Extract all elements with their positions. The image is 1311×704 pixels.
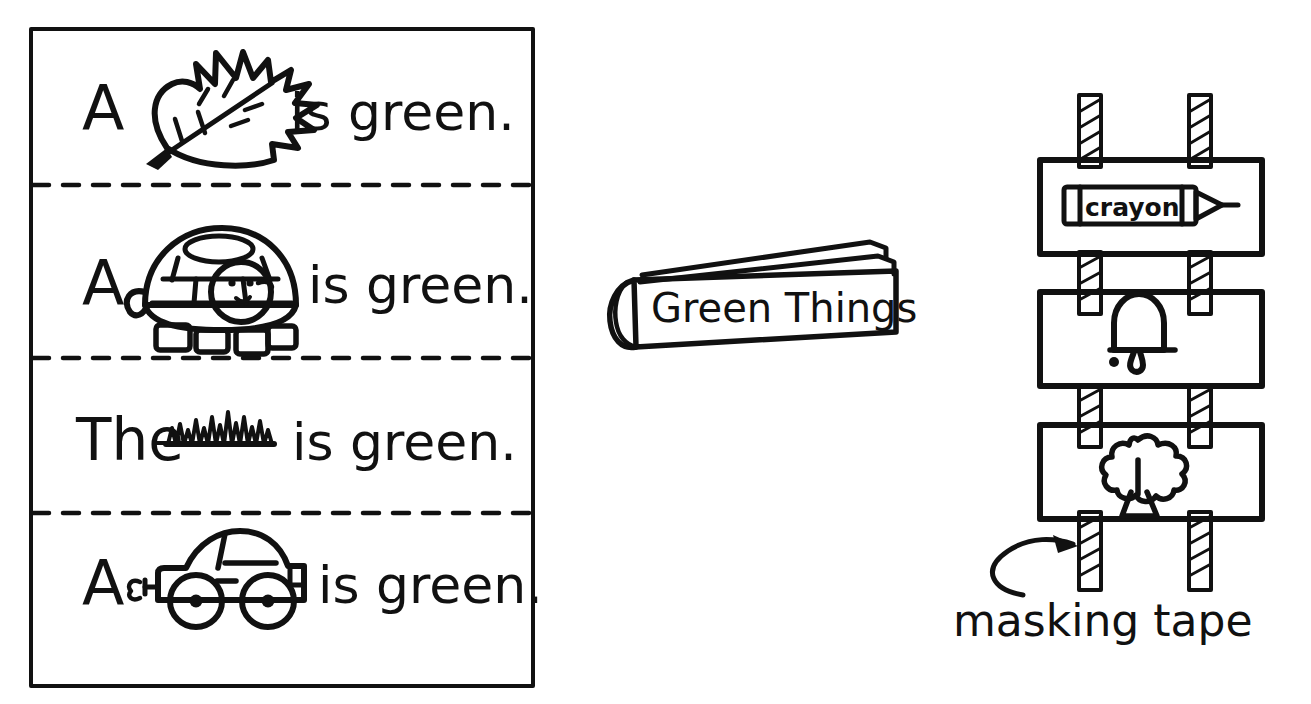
tree-icon [1102,436,1187,516]
strip-1-lead-word: A [82,72,124,145]
sentence-strip-2[interactable]: A is green. [82,228,533,354]
crayon-icon: crayon [1064,187,1238,224]
strip-4-lead-word: A [82,547,124,620]
worksheet-canvas: A is green. [0,0,1311,704]
strip-4-trailing-text: is green. [318,555,543,615]
strip-2-lead-word: A [82,247,124,320]
strip-3-trailing-text: is green. [292,412,517,472]
strip-1-trailing-text: is green. [290,82,515,142]
taped-cards-board[interactable]: crayon [953,95,1262,646]
worksheet-page: A is green. [0,0,1311,704]
sentence-strip-3[interactable]: The is green. [75,406,517,474]
bell-icon [1109,294,1175,372]
sentence-strip-4[interactable]: A is green. [82,531,543,627]
car-icon [129,531,304,627]
strip-2-trailing-text: is green. [308,255,533,315]
turtle-icon [127,228,296,354]
picture-card-crayon[interactable]: crayon [1040,160,1262,254]
masking-tape-strip-right [1189,95,1211,590]
book-cover-title: Green Things [651,285,917,331]
strip-3-lead-word: The [75,406,184,474]
masking-tape-label: masking tape [953,595,1252,646]
picture-card-tree[interactable] [1040,425,1262,519]
crayon-wrapper-label: crayon [1085,193,1180,222]
sentence-strip-1[interactable]: A is green. [82,52,515,170]
picture-card-bell[interactable] [1040,292,1262,386]
masking-tape-strip-left [1079,95,1101,590]
green-things-book[interactable]: Green Things [610,242,918,347]
